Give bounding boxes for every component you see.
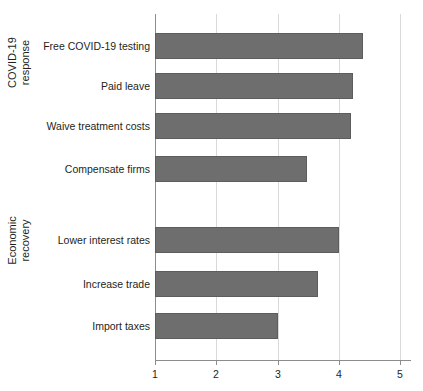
group-label-covid-response: COVID-19 response <box>6 3 31 123</box>
x-tick-mark <box>400 360 401 365</box>
category-label: Lower interest rates <box>2 234 150 246</box>
category-label: Waive treatment costs <box>2 120 150 132</box>
gridline <box>339 14 340 360</box>
category-label: Import taxes <box>2 320 150 332</box>
category-label: Compensate firms <box>2 163 150 175</box>
x-tick-mark <box>216 360 217 365</box>
plot-area <box>155 14 410 360</box>
category-label: Free COVID-19 testing <box>2 40 150 52</box>
x-tick-label: 1 <box>140 368 170 380</box>
x-tick-mark <box>339 360 340 365</box>
category-label-row: Waive treatment costs <box>0 113 150 139</box>
category-label-row: Free COVID-19 testing <box>0 33 150 59</box>
category-label: Increase trade <box>2 278 150 290</box>
x-tick-mark <box>278 360 279 365</box>
x-tick-label: 3 <box>263 368 293 380</box>
bar <box>155 113 351 139</box>
bar <box>155 313 278 339</box>
horizontal-bar-chart: COVID-19 response Economic recovery Free… <box>0 0 423 391</box>
x-tick-label: 2 <box>201 368 231 380</box>
bar <box>155 271 318 297</box>
bar <box>155 227 339 253</box>
x-axis-line <box>155 360 411 361</box>
gridline <box>400 14 401 360</box>
x-tick-mark <box>155 360 156 365</box>
category-label-row: Increase trade <box>0 271 150 297</box>
y-axis-line <box>155 14 156 360</box>
bar <box>155 33 363 59</box>
bar <box>155 73 353 99</box>
category-label-row: Compensate firms <box>0 156 150 182</box>
gridline <box>278 14 279 360</box>
gridline <box>216 14 217 360</box>
category-label-row: Paid leave <box>0 73 150 99</box>
category-label-row: Import taxes <box>0 313 150 339</box>
category-label-row: Lower interest rates <box>0 227 150 253</box>
category-label: Paid leave <box>2 80 150 92</box>
x-tick-label: 4 <box>324 368 354 380</box>
x-tick-label: 5 <box>385 368 415 380</box>
bar <box>155 156 307 182</box>
